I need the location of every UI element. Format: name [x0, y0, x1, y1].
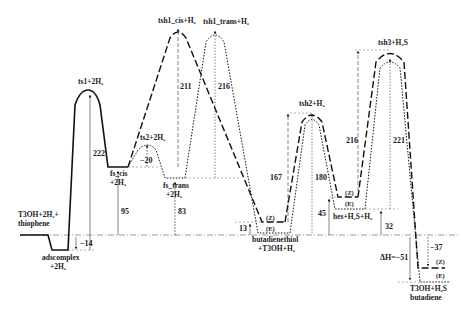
label-tsh2: tsh2+H₂	[299, 99, 325, 108]
value-95: 95	[121, 207, 129, 216]
path-tsh1-trans-dotted	[185, 35, 290, 233]
value-13: 13	[239, 224, 247, 233]
value-deltaH: ΔH=−51	[380, 253, 408, 262]
label-tsh3: tsh3+H₂S	[378, 38, 408, 47]
label-adscomplex-line1: adscomplex	[42, 253, 80, 262]
label-butadienethiol-Z: (Z)	[266, 214, 275, 222]
label-tsh1-trans: tsh1_trans+H₂	[203, 17, 250, 26]
value-167: 167	[270, 173, 282, 182]
label-fstrans-line1: fs_trans	[163, 181, 189, 190]
path-tsh1-cis-dashed	[128, 32, 285, 222]
label-fscis-line1: fs_cis	[110, 169, 128, 178]
value-180: 180	[315, 173, 327, 182]
value-221: 221	[393, 136, 405, 145]
label-tsh1-cis: tsh1_cis+H₂	[158, 16, 197, 25]
label-fstrans-line2: +2H₂	[166, 190, 183, 199]
label-adscomplex-line2: +2H₂	[50, 262, 67, 271]
value-neg37: −37	[430, 243, 443, 252]
label-final-line2: butadiene	[410, 293, 442, 302]
value-32: 32	[385, 222, 393, 231]
value-211: 211	[180, 82, 192, 91]
value-83: 83	[178, 207, 186, 216]
value-neg20: −20	[140, 156, 153, 165]
label-hes-E: (E)	[345, 200, 354, 208]
label-butadienethiol-line2: +T3OH+H₂	[258, 244, 296, 253]
label-butadienethiol-line1: butadienethiol	[252, 235, 298, 244]
label-butadienethiol-E: (E)	[266, 225, 275, 233]
label-start-line1: T3OH+2H₂+	[18, 210, 59, 219]
label-final-Z: (Z)	[436, 258, 445, 266]
label-final-line1: T3OH+H₂S	[410, 284, 447, 293]
path-ts2-dotted	[128, 145, 185, 178]
label-hes-Z: (Z)	[345, 189, 354, 197]
energy-diagram: T3OH+2H₂+ thiophene adscomplex +2H₂ ts1+…	[0, 0, 461, 310]
label-start-line2: thiophene	[18, 219, 50, 228]
value-216b: 216	[346, 136, 358, 145]
label-ts2: ts2+2H₂	[140, 133, 166, 142]
label-final-E: (E)	[436, 272, 445, 280]
value-neg14: −14	[80, 239, 93, 248]
value-222: 222	[93, 149, 105, 158]
value-216a: 216	[218, 82, 230, 91]
label-fscis-line2: +2H₂	[110, 178, 127, 187]
label-hes: hes+H₂S+H₂	[333, 212, 373, 221]
label-ts1: ts1+2H₂	[78, 77, 104, 86]
value-45: 45	[318, 209, 326, 218]
